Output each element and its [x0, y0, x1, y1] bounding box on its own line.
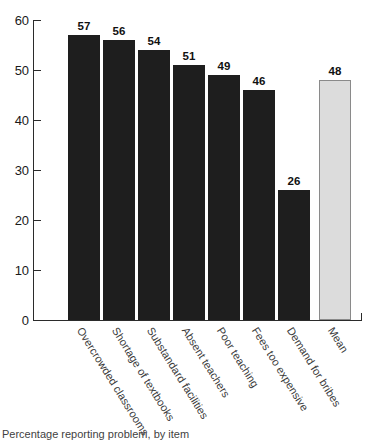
- bar: [138, 50, 170, 320]
- y-axis-tick-label-text: 50: [2, 64, 29, 77]
- y-axis-tick: [34, 220, 41, 221]
- bar-value-label: 26: [274, 175, 314, 187]
- y-axis-tick: [34, 120, 41, 121]
- y-axis-tick-label: 30: [0, 164, 29, 177]
- y-axis-tick: [34, 270, 41, 271]
- bar-value-label: 51: [169, 50, 209, 62]
- x-axis-end-tick: [361, 313, 362, 321]
- y-axis-tick: [34, 20, 41, 21]
- bar: [278, 190, 310, 320]
- bar-value-label: 48: [315, 65, 355, 77]
- category-label: Shortage of textbooks: [110, 325, 177, 423]
- bar-value-label: 57: [64, 20, 104, 32]
- bar-value-label: 54: [134, 35, 174, 47]
- bar-value-label: 56: [99, 25, 139, 37]
- category-label: Overcrowded classrooms: [75, 325, 152, 438]
- y-axis-tick-label: 40: [0, 114, 29, 127]
- y-axis-tick-label: 10: [0, 264, 29, 277]
- bar-value-label: 46: [239, 75, 279, 87]
- bar-value-label: 49: [204, 60, 244, 72]
- bar: [68, 35, 100, 320]
- bar: [173, 65, 205, 320]
- y-axis-tick-label-text: 60: [2, 14, 29, 27]
- figure-caption: Percentage reporting problem, by item: [2, 428, 374, 441]
- y-axis-tick: [34, 170, 41, 171]
- x-axis-line: [33, 320, 362, 321]
- y-axis-tick-label: 50: [0, 64, 29, 77]
- category-label: Substandard facilities: [145, 325, 211, 421]
- category-label: Mean: [326, 325, 351, 355]
- plot-area: 0102030405060 5756545149462648 Overcrowd…: [0, 0, 376, 330]
- y-axis-tick-label-text: 0: [2, 314, 29, 327]
- bar: [103, 40, 135, 320]
- y-axis-tick-label: 60: [0, 14, 29, 27]
- y-axis-tick-label-text: 30: [2, 164, 29, 177]
- y-axis-tick: [34, 320, 41, 321]
- y-axis-tick-label-text: 40: [2, 114, 29, 127]
- y-axis-tick: [34, 70, 41, 71]
- y-axis-tick-label: 20: [0, 214, 29, 227]
- bar: [208, 75, 240, 320]
- bar: [319, 80, 351, 320]
- y-axis-tick-label-text: 20: [2, 214, 29, 227]
- y-axis-tick-label: 0: [0, 314, 29, 327]
- y-axis-tick-label-text: 10: [2, 264, 29, 277]
- bar: [243, 90, 275, 320]
